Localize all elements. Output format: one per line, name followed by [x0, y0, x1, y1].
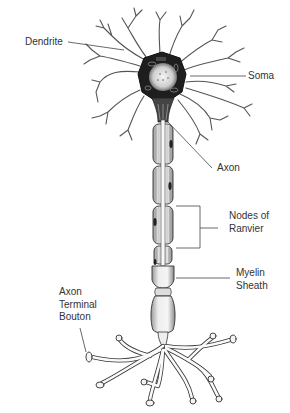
label-myelin-sheath: Myelin Sheath: [236, 267, 268, 292]
label-axon-terminal-bouton: Axon Terminal Bouton: [59, 286, 97, 324]
label-soma: Soma: [248, 70, 274, 83]
label-dendrite: Dendrite: [25, 36, 63, 49]
neuron-illustration: [0, 0, 290, 413]
soma: [138, 52, 186, 122]
label-axon: Axon: [217, 162, 240, 175]
axon: [151, 120, 175, 346]
label-nodes-of-ranvier: Nodes of Ranvier: [229, 210, 269, 235]
dendrite-leader: [68, 42, 124, 50]
axon-leader: [168, 122, 212, 168]
nodes-bracket: [176, 206, 218, 248]
terminal-leader: [80, 328, 86, 352]
neuron-diagram: Dendrite Soma Axon Nodes of Ranvier Myel…: [0, 0, 290, 413]
